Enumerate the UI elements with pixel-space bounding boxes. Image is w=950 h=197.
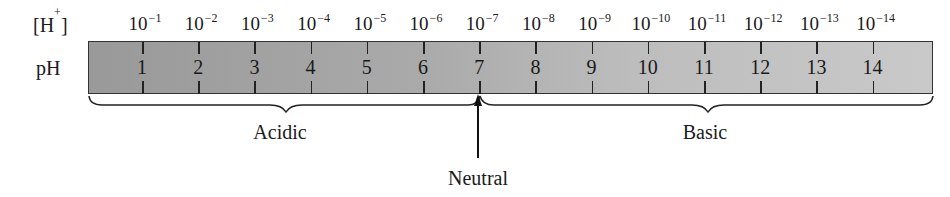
basic-brace [480,96,933,112]
acidic-label: Acidic [253,122,306,142]
neutral-label: Neutral [448,168,508,188]
acidic-brace [89,96,480,112]
basic-label: Basic [683,122,727,142]
